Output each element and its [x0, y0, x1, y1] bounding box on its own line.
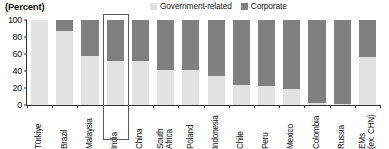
y-axis-tick-20: 20 — [13, 84, 27, 93]
x-axis-label-slot: Indonesia — [204, 107, 229, 149]
bar-slot — [77, 20, 102, 105]
x-axis-label: Malaysia — [86, 107, 95, 149]
bar-segment-government-related — [107, 61, 124, 105]
y-axis-tick-label: 100 — [8, 16, 22, 25]
x-axis-label: Poland — [187, 107, 196, 149]
bar-segment-corporate — [107, 20, 124, 61]
bar-slot — [27, 20, 52, 105]
bar-mexico — [283, 20, 300, 105]
bar-brazil — [56, 20, 73, 105]
bar-segment-corporate — [132, 20, 149, 61]
bar-malaysia — [81, 20, 98, 105]
bar-segment-corporate — [334, 20, 351, 104]
x-axis-label-slot: Mexico — [279, 107, 304, 149]
bar-segment-government-related — [258, 86, 275, 105]
plot-area: 020406080100 — [27, 20, 380, 105]
bar-slot — [355, 20, 380, 105]
y-axis-tick-80: 80 — [13, 33, 27, 42]
bar-slot — [279, 20, 304, 105]
bar-segment-government-related — [233, 85, 250, 105]
stacked-bar-chart: (Percent) Government-related Corporate 0… — [0, 0, 389, 149]
bar-slot — [204, 20, 229, 105]
x-axis-label-slot: Peru — [254, 107, 279, 149]
x-axis-label: Peru — [262, 107, 271, 149]
x-axis-label-slot: EMs (ex. CHN) — [355, 107, 380, 149]
y-axis-tick-40: 40 — [13, 67, 27, 76]
bar-slot — [52, 20, 77, 105]
bar-poland — [182, 20, 199, 105]
bar-segment-government-related — [81, 56, 98, 105]
legend-swatch-corporate — [241, 3, 248, 10]
bar-segment-corporate — [208, 20, 225, 76]
bar-segment-government-related — [359, 57, 376, 105]
y-axis-units-label: (Percent) — [5, 1, 44, 12]
legend-swatch-government-related — [150, 3, 157, 10]
y-axis-tick-100: 100 — [8, 16, 27, 25]
bar-slot — [103, 20, 128, 105]
bar-slot — [304, 20, 329, 105]
bar-segment-corporate — [359, 20, 376, 57]
bar-segment-government-related — [283, 89, 300, 105]
bar-segment-government-related — [31, 20, 48, 105]
bar-chile — [233, 20, 250, 105]
legend-label-corporate: Corporate — [251, 2, 287, 10]
bar-indonesia — [208, 20, 225, 105]
x-axis-label: Brazil — [61, 107, 70, 149]
chart-legend: Government-related Corporate — [150, 2, 287, 10]
bar-slot — [153, 20, 178, 105]
x-axis-label: EMs (ex. CHN) — [359, 107, 376, 149]
bar-segment-government-related — [208, 76, 225, 105]
x-axis-label-slot: Malaysia — [77, 107, 102, 149]
y-axis-tick-label: 80 — [13, 33, 22, 42]
x-axis-category-labels: TürkiyeBrazilMalaysiaIndiaChinaSouth Afr… — [27, 107, 380, 149]
x-axis-label: China — [136, 107, 145, 149]
bar-segment-corporate — [157, 20, 174, 70]
bar-group — [27, 20, 380, 105]
x-axis-label-slot: Türkiye — [27, 107, 52, 149]
legend-entry-government-related: Government-related — [150, 2, 232, 10]
bar-segment-corporate — [182, 20, 199, 70]
bar-segment-government-related — [132, 61, 149, 105]
bar-south-africa — [157, 20, 174, 105]
bar-china — [132, 20, 149, 105]
bar-segment-government-related — [308, 103, 325, 105]
bar-segment-corporate — [258, 20, 275, 86]
bar-türkiye — [31, 20, 48, 105]
bar-segment-government-related — [334, 104, 351, 105]
bar-slot — [330, 20, 355, 105]
y-axis-tick-label: 60 — [13, 50, 22, 59]
bar-india — [107, 20, 124, 105]
bar-segment-government-related — [182, 70, 199, 105]
y-axis-tick-label: 40 — [13, 67, 22, 76]
bar-peru — [258, 20, 275, 105]
x-axis-label-slot: Brazil — [52, 107, 77, 149]
x-axis-label-slot: South Africa — [153, 107, 178, 149]
y-axis-tick-60: 60 — [13, 50, 27, 59]
bar-segment-corporate — [308, 20, 325, 103]
x-axis-label: Türkiye — [35, 107, 44, 149]
x-axis-label-slot: Chile — [229, 107, 254, 149]
bar-slot — [254, 20, 279, 105]
x-axis-tick-mark — [380, 105, 381, 108]
x-axis-label: Colombia — [313, 107, 322, 149]
y-axis-tick-0: 0 — [17, 101, 27, 110]
x-axis-label-slot: China — [128, 107, 153, 149]
bar-segment-corporate — [56, 20, 73, 31]
y-axis-tick-label: 20 — [13, 84, 22, 93]
bar-slot — [178, 20, 203, 105]
x-axis-label: Chile — [237, 107, 246, 149]
bar-slot — [229, 20, 254, 105]
bar-segment-corporate — [81, 20, 98, 56]
bar-russia — [334, 20, 351, 105]
bar-segment-corporate — [233, 20, 250, 85]
bar-ems--ex--chn- — [359, 20, 376, 105]
x-axis-label-slot: Colombia — [304, 107, 329, 149]
x-axis-label-slot: Russia — [330, 107, 355, 149]
legend-entry-corporate: Corporate — [241, 2, 287, 10]
x-axis-label: South Africa — [157, 107, 174, 149]
bar-slot — [128, 20, 153, 105]
x-axis-label-slot: Poland — [178, 107, 203, 149]
y-axis-tick-label: 0 — [17, 101, 22, 110]
x-axis-label: Russia — [338, 107, 347, 149]
bar-segment-government-related — [56, 31, 73, 105]
